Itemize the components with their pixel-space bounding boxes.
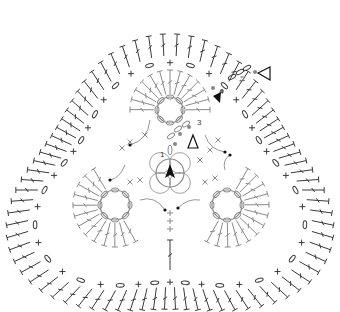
curved-arrow-icon [224, 155, 230, 170]
round-label: 5 [240, 75, 244, 83]
chain-icon [288, 255, 296, 263]
chain-icon [145, 63, 154, 69]
right-flower [212, 190, 242, 220]
chain-icon [76, 277, 85, 283]
chain-icon [242, 110, 249, 119]
chain-icon [186, 63, 195, 69]
chain-icon [78, 136, 85, 145]
slip-stitch-icon [173, 142, 177, 146]
chain-icon [116, 283, 124, 287]
chain-icon [181, 281, 189, 285]
chain-icon [167, 132, 176, 140]
chain-icon [111, 82, 119, 90]
chain-icon [243, 65, 252, 72]
chain-icon [255, 277, 264, 283]
curved-arrow-icon [205, 135, 225, 152]
chain-icon [228, 74, 237, 81]
chain-icon [216, 283, 224, 287]
slip-stitch-icon [187, 125, 191, 129]
left-flower [100, 190, 130, 220]
curved-arrow-icon [140, 199, 165, 210]
chain-icon [303, 221, 307, 229]
chain-icon [174, 125, 183, 133]
round-label: 1 [160, 151, 164, 159]
round-label: 3 [197, 119, 201, 127]
chain-icon [255, 136, 262, 145]
join-marker-icon [258, 67, 270, 80]
top-flower [157, 97, 183, 123]
join-marker-icon [188, 135, 198, 148]
chain-icon [292, 186, 299, 195]
curved-arrow-icon [178, 200, 200, 208]
slip-stitch-icon [211, 86, 215, 90]
curved-arrow-icon [110, 165, 125, 180]
chain-icon [151, 281, 159, 285]
chain-icon [272, 159, 280, 167]
chain-icon [91, 110, 98, 119]
chart-svg [0, 0, 340, 312]
chain-icon [41, 186, 48, 195]
slip-stitch-icon [253, 70, 257, 74]
chain-icon [168, 145, 172, 155]
chain-icon [33, 221, 37, 229]
chain-icon [60, 159, 68, 167]
chain-icon [44, 255, 52, 263]
slip-stitch-icon [178, 132, 182, 136]
round-label: 4 [219, 88, 223, 96]
